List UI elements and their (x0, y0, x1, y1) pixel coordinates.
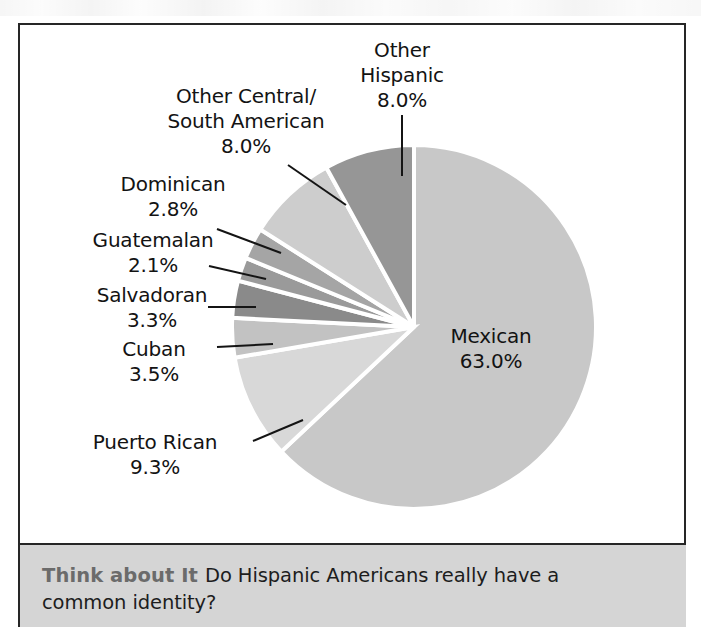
pie-label-other-central-south-american-line1: Other Central/ (138, 84, 354, 109)
caption-line-1: Think about ItDo Hispanic Americans real… (42, 562, 664, 589)
pie-label-mexican-value: 63.0% (428, 349, 554, 374)
pie-label-guatemalan-value: 2.1% (77, 253, 229, 278)
caption-question-line1: Do Hispanic Americans really have a (205, 564, 559, 587)
think-about-it-band: Think about ItDo Hispanic Americans real… (18, 543, 686, 627)
pie-label-other-central-south-american-line2: South American (138, 109, 354, 134)
pie-label-other-hispanic-line2: Hispanic (336, 63, 468, 88)
pie-label-puerto-rican-value: 9.3% (62, 455, 248, 480)
pie-label-guatemalan: Guatemalan 2.1% (77, 228, 229, 278)
pie-label-dominican-value: 2.8% (102, 197, 244, 222)
pie-label-mexican-line1: Mexican (428, 324, 554, 349)
pie-label-salvadoran: Salvadoran 3.3% (78, 283, 226, 333)
pie-label-other-hispanic-value: 8.0% (336, 88, 468, 113)
pie-label-salvadoran-value: 3.3% (78, 308, 226, 333)
pie-label-cuban-line1: Cuban (100, 337, 208, 362)
pie-label-guatemalan-line1: Guatemalan (77, 228, 229, 253)
pie-label-mexican: Mexican 63.0% (428, 324, 554, 374)
pie-label-dominican-line1: Dominican (102, 172, 244, 197)
pie-label-other-hispanic: Other Hispanic 8.0% (336, 38, 468, 113)
pie-label-salvadoran-line1: Salvadoran (78, 283, 226, 308)
pie-label-other-central-south-american: Other Central/ South American 8.0% (138, 84, 354, 159)
pie-label-cuban-value: 3.5% (100, 362, 208, 387)
caption-line-2: common identity? (42, 589, 664, 616)
pie-label-puerto-rican-line1: Puerto Rican (62, 430, 248, 455)
pie-label-other-central-south-american-value: 8.0% (138, 134, 354, 159)
pie-label-other-hispanic-line1: Other (336, 38, 468, 63)
pie-label-dominican: Dominican 2.8% (102, 172, 244, 222)
pie-label-puerto-rican: Puerto Rican 9.3% (62, 430, 248, 480)
caption-label: Think about It (42, 564, 198, 587)
scan-artifact (0, 0, 701, 16)
pie-label-cuban: Cuban 3.5% (100, 337, 208, 387)
